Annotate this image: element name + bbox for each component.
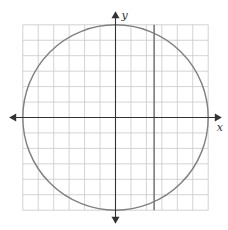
coordinate-graph: x y [0, 0, 228, 230]
axes [9, 11, 222, 224]
y-axis-label: y [121, 9, 129, 22]
x-axis-label: x [217, 121, 224, 134]
y-axis-arrow-down-icon [112, 217, 120, 224]
y-axis-arrow-up-icon [112, 11, 120, 18]
x-axis-arrow-left-icon [9, 114, 16, 122]
